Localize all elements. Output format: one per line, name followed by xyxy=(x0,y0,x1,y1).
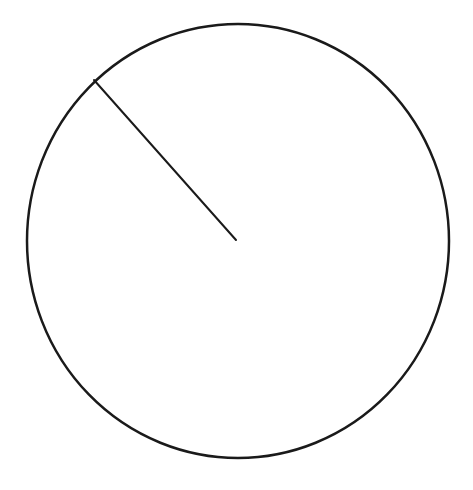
diagram-canvas xyxy=(0,0,473,490)
radius-line xyxy=(94,80,236,240)
circle-outline xyxy=(27,24,449,458)
